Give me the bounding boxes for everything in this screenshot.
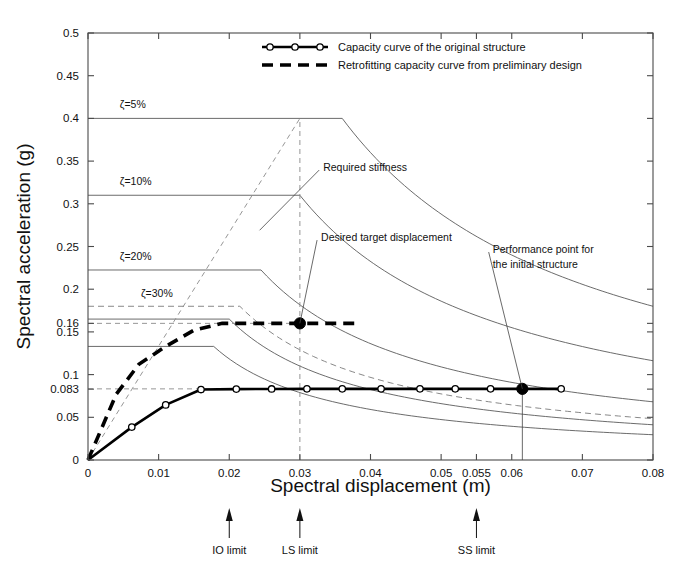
series-marker	[452, 386, 458, 392]
x-tick-label: 0	[85, 467, 91, 479]
limit-label-ss-limit: SS limit	[458, 544, 495, 556]
damping-label-zeta-30: ζ=30%	[141, 287, 173, 299]
capacity-spectrum-chart: Required stiffnessDesired target displac…	[0, 0, 674, 580]
legend-marker	[317, 44, 323, 50]
series-marker	[129, 424, 135, 430]
legend-label: Retrofitting capacity curve from prelimi…	[338, 59, 582, 71]
damping-label-zeta-10: ζ=10%	[120, 175, 152, 187]
legend-marker	[267, 44, 273, 50]
y-tick-label: 0.3	[63, 198, 79, 210]
series-marker	[198, 386, 204, 392]
y-tick-label: 0.16	[57, 317, 79, 329]
series-marker	[304, 386, 310, 392]
limit-label-ls-limit: LS limit	[282, 544, 318, 556]
series-marker	[378, 386, 384, 392]
y-tick-label: 0.1	[63, 369, 79, 381]
legend-label: Capacity curve of the original structure	[338, 41, 526, 53]
y-tick-label: 0.4	[63, 112, 80, 124]
x-tick-label: 0.06	[501, 467, 523, 479]
x-tick-label: 0.02	[218, 467, 240, 479]
x-axis-title: Spectral displacement (m)	[270, 475, 491, 496]
y-tick-label: 0.5	[63, 27, 79, 39]
annotation-desired-target-displacement: Desired target displacement	[321, 231, 452, 243]
limit-label-io-limit: IO limit	[212, 544, 246, 556]
y-tick-label: 0.2	[63, 283, 79, 295]
y-tick-label: 0.083	[50, 383, 79, 395]
y-tick-label: 0.25	[57, 241, 79, 253]
series-marker	[558, 386, 564, 392]
damping-label-zeta-20: ζ=20%	[120, 250, 152, 262]
y-axis-title: Spectral acceleration (g)	[13, 144, 34, 350]
damping-label-zeta-5: ζ=5%	[120, 98, 146, 110]
series-marker	[417, 386, 423, 392]
y-tick-label: 0.45	[57, 70, 79, 82]
chart-figure: Required stiffnessDesired target displac…	[0, 0, 674, 580]
series-marker	[339, 386, 345, 392]
series-marker	[162, 402, 168, 408]
annotation-performance-point-initial-line2: the initial structure	[493, 258, 578, 270]
x-tick-label: 0.08	[642, 467, 664, 479]
x-tick-label: 0.07	[571, 467, 593, 479]
y-tick-label: 0	[73, 454, 79, 466]
y-tick-label: 0.05	[57, 411, 79, 423]
x-tick-label: 0.01	[147, 467, 169, 479]
legend-marker	[292, 44, 298, 50]
series-marker	[233, 386, 239, 392]
annotation-required-stiffness: Required stiffness	[323, 161, 407, 173]
annotation-performance-point-initial: Performance point for	[493, 243, 594, 255]
series-marker	[487, 386, 493, 392]
series-marker	[268, 386, 274, 392]
y-tick-label: 0.35	[57, 155, 79, 167]
